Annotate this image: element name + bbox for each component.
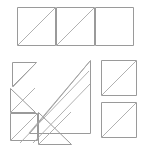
- top-square-2-diagonal: [57, 8, 94, 45]
- top-square-2: [57, 8, 95, 46]
- hypotenuse-line-2: [13, 63, 36, 87]
- top-square-3-outline: [96, 8, 134, 46]
- right-column-group: [102, 61, 137, 138]
- top-square-1: [18, 8, 56, 46]
- square-small-lower-left: [11, 114, 38, 141]
- square-small-lower-left-diagonal: [11, 114, 37, 140]
- parallel-hypotenuse-lines: [11, 61, 90, 144]
- top-square-1-diagonal: [18, 8, 55, 45]
- nested-triangles-group: [11, 61, 91, 145]
- geometric-figure: [0, 0, 148, 150]
- figure-canvas: Geometric line figure of squares and nes…: [0, 0, 148, 150]
- right-square-1: [102, 61, 137, 96]
- top-square-3: [96, 8, 134, 46]
- hypotenuse-line-1: [29, 61, 90, 133]
- right-square-1-diagonal: [102, 61, 136, 95]
- right-square-2: [102, 103, 137, 138]
- top-row-group: [18, 8, 134, 46]
- right-square-2-diagonal: [102, 103, 136, 137]
